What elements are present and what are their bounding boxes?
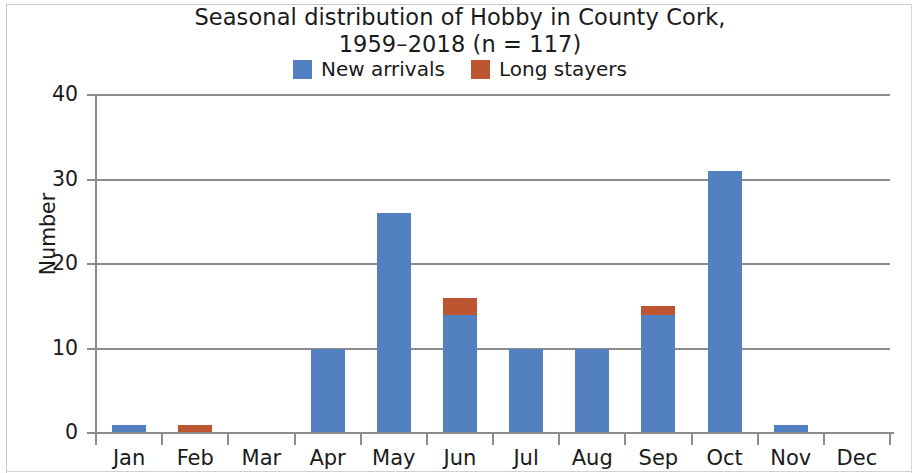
bar-segment: [708, 171, 742, 433]
x-axis-tick-mark: [624, 434, 626, 445]
x-axis-tick-label: Mar: [228, 446, 294, 470]
figure-border-bottom: [6, 471, 911, 472]
bar-segment: [443, 298, 477, 315]
y-axis-tick-label: 40: [22, 84, 78, 104]
chart-title-line-2: 1959–2018 (n = 117): [120, 31, 800, 58]
y-axis-tick-mark: [87, 348, 96, 350]
gridline: [96, 179, 890, 181]
x-axis-tick-label: Apr: [295, 446, 361, 470]
x-axis-tick-mark: [227, 434, 229, 445]
x-axis-tick-label: Jun: [427, 446, 493, 470]
bar-segment: [443, 315, 477, 433]
gridline: [96, 94, 890, 96]
chart-title: Seasonal distribution of Hobby in County…: [120, 4, 800, 58]
x-axis-origin-tick: [95, 424, 97, 445]
x-axis-tick-label: Sep: [625, 446, 691, 470]
x-axis-tick-label: Nov: [758, 446, 824, 470]
y-axis-tick-mark: [87, 263, 96, 265]
chart-legend: New arrivals Long stayers: [120, 59, 800, 79]
x-axis-tick-mark: [757, 434, 759, 445]
y-axis-tick-label: 10: [22, 338, 78, 358]
bar-segment: [641, 306, 675, 314]
figure-border-right: [911, 4, 912, 473]
legend-label-new-arrivals: New arrivals: [321, 59, 445, 79]
x-axis-tick-mark: [294, 434, 296, 445]
bar-segment: [509, 349, 543, 434]
bar-segment: [575, 349, 609, 434]
x-axis-tick-mark: [360, 434, 362, 445]
gridline: [96, 348, 890, 350]
x-axis-tick-mark: [161, 434, 163, 445]
bar-segment: [311, 349, 345, 434]
y-axis-label: Number: [36, 174, 60, 294]
legend-swatch-long-stayers: [471, 60, 490, 79]
x-axis-tick-mark: [426, 434, 428, 445]
x-axis-tick-label: Oct: [692, 446, 758, 470]
figure-border-left: [6, 4, 7, 473]
bar-segment: [641, 315, 675, 433]
y-axis-tick-label: 30: [22, 169, 78, 189]
plot-area: [96, 95, 890, 433]
x-axis-tick-label: May: [361, 446, 427, 470]
legend-item-new-arrivals: New arrivals: [293, 59, 445, 79]
y-axis-tick-mark: [87, 179, 96, 181]
x-axis-tick-label: Dec: [824, 446, 890, 470]
x-axis-tick-label: Aug: [559, 446, 625, 470]
x-axis-tick-label: Jul: [493, 446, 559, 470]
x-axis-tick-mark: [889, 434, 891, 445]
legend-label-long-stayers: Long stayers: [499, 59, 627, 79]
legend-swatch-new-arrivals: [293, 60, 312, 79]
gridline: [96, 263, 890, 265]
bar-segment: [377, 213, 411, 433]
legend-item-long-stayers: Long stayers: [471, 59, 627, 79]
x-axis-tick-mark: [558, 434, 560, 445]
x-axis-tick-label: Feb: [162, 446, 228, 470]
x-axis-tick-mark: [492, 434, 494, 445]
chart-title-line-1: Seasonal distribution of Hobby in County…: [120, 4, 800, 31]
x-axis-tick-mark: [823, 434, 825, 445]
x-axis-tick-mark: [691, 434, 693, 445]
y-axis-tick-mark: [87, 94, 96, 96]
y-axis-tick-label: 20: [22, 253, 78, 273]
y-axis-tick-label: 0: [22, 422, 78, 442]
x-axis-line: [88, 432, 894, 434]
x-axis-tick-label: Jan: [96, 446, 162, 470]
chart-figure: Seasonal distribution of Hobby in County…: [0, 0, 913, 473]
